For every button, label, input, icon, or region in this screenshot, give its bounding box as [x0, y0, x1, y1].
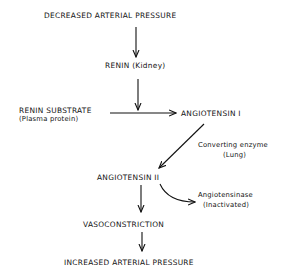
node-angiotensinase-note: (Inactivated)	[203, 201, 249, 209]
node-increased-arterial-pressure: INCREASED ARTERIAL PRESSURE	[64, 258, 194, 267]
label-converting-enzyme: Converting enzyme	[198, 141, 268, 149]
diagram-arrows	[0, 0, 293, 277]
node-vasoconstriction: VASOCONSTRICTION	[83, 220, 164, 229]
node-renin-substrate-note: (Plasma protein)	[19, 115, 78, 123]
node-decreased-arterial-pressure: DECREASED ARTERIAL PRESSURE	[44, 11, 176, 20]
arrow-angiotensin-2-to-angiotensinase	[160, 184, 195, 202]
node-angiotensin-1: ANGIOTENSIN I	[181, 109, 241, 118]
node-renin: RENIN (Kidney)	[105, 61, 166, 70]
node-angiotensinase: Angiotensinase	[198, 191, 253, 199]
label-converting-enzyme-note: (Lung)	[223, 151, 246, 159]
node-renin-substrate: RENIN SUBSTRATE	[19, 106, 92, 115]
node-angiotensin-2: ANGIOTENSIN II	[97, 173, 159, 182]
